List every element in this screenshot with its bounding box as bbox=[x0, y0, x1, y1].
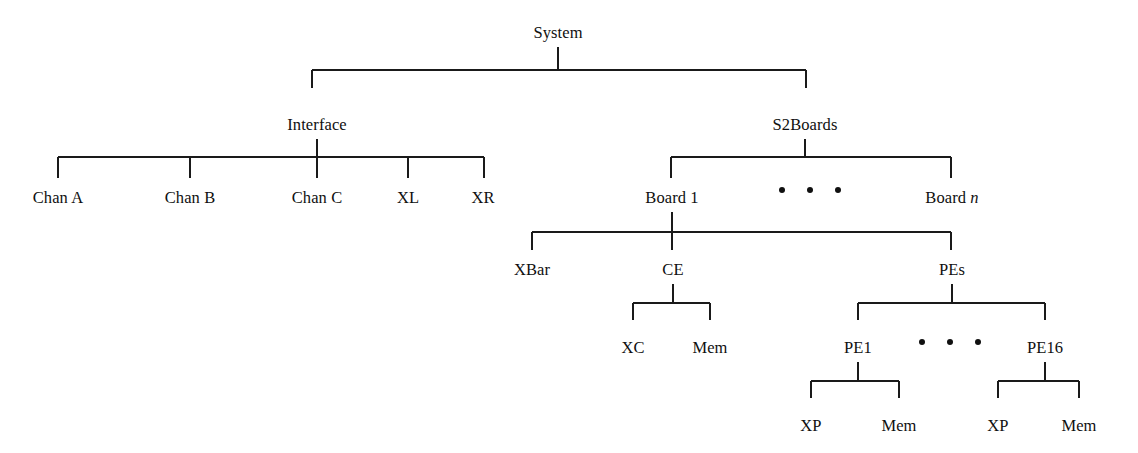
node-label-chan-b: Chan B bbox=[165, 188, 216, 207]
pes-ellipsis-dot-2 bbox=[975, 339, 981, 345]
node-label-mem-ce: Mem bbox=[692, 338, 727, 357]
boards-ellipsis-dot-0 bbox=[779, 187, 785, 193]
node-label-ce: CE bbox=[662, 260, 683, 279]
connector-lines-group bbox=[58, 47, 1079, 398]
node-label-interface: Interface bbox=[287, 115, 347, 134]
connector-system-to-children bbox=[312, 47, 806, 88]
node-label-pe16: PE16 bbox=[1027, 338, 1063, 357]
node-label-pes: PEs bbox=[939, 260, 965, 279]
connector-s2boards-to-boards bbox=[671, 139, 951, 178]
node-label-xc: XC bbox=[621, 338, 644, 357]
connector-ce-to-parts bbox=[633, 284, 710, 320]
system-hierarchy-diagram: SystemInterfaceS2BoardsChan AChan BChan … bbox=[0, 0, 1138, 453]
node-label-mem-pe1: Mem bbox=[881, 416, 916, 435]
node-label-board-n: Board n bbox=[925, 188, 978, 207]
node-label-xp-1: XP bbox=[800, 416, 821, 435]
node-label-board-1: Board 1 bbox=[645, 188, 698, 207]
pes-ellipsis-dot-1 bbox=[947, 339, 953, 345]
node-label-xbar: XBar bbox=[514, 260, 551, 279]
node-label-mem-pe16: Mem bbox=[1061, 416, 1096, 435]
pes-ellipsis-dot-0 bbox=[919, 339, 925, 345]
node-label-xr: XR bbox=[471, 188, 494, 207]
node-label-chan-c: Chan C bbox=[292, 188, 343, 207]
tree-diagram-canvas: SystemInterfaceS2BoardsChan AChan BChan … bbox=[0, 0, 1138, 453]
node-labels-group: SystemInterfaceS2BoardsChan AChan BChan … bbox=[33, 23, 1097, 435]
boards-ellipsis-dot-2 bbox=[835, 187, 841, 193]
node-label-xl: XL bbox=[397, 188, 419, 207]
connector-pe1-to-parts bbox=[811, 362, 899, 398]
node-label-chan-a: Chan A bbox=[33, 188, 84, 207]
connector-interface-to-channels bbox=[58, 139, 484, 178]
node-label-system: System bbox=[533, 23, 582, 42]
connector-board1-to-units bbox=[532, 212, 951, 250]
node-label-s2boards: S2Boards bbox=[773, 115, 838, 134]
node-label-xp-16: XP bbox=[987, 416, 1008, 435]
boards-ellipsis bbox=[779, 187, 841, 193]
connector-pes-to-pe bbox=[858, 284, 1045, 320]
pes-ellipsis bbox=[919, 339, 981, 345]
node-label-pe1: PE1 bbox=[844, 338, 872, 357]
boards-ellipsis-dot-1 bbox=[807, 187, 813, 193]
connector-pe16-to-parts bbox=[998, 362, 1079, 398]
